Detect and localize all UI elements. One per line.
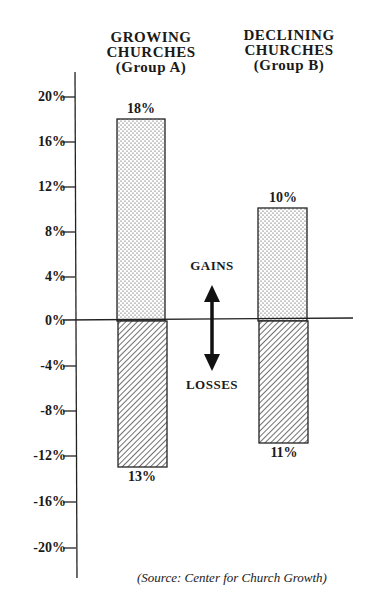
- y-tick-label: 0%: [45, 314, 66, 328]
- group-a-header: GROWING CHURCHES (Group A): [96, 30, 206, 75]
- group-a-line2: CHURCHES: [96, 45, 206, 60]
- y-tick-label: -20%: [33, 541, 66, 555]
- losses-annotation: LOSSES: [177, 377, 247, 393]
- group-b-header: DECLINING CHURCHES (Group B): [234, 28, 344, 73]
- group-a-gain-value: 18%: [111, 102, 171, 116]
- group-a-line3: (Group A): [96, 60, 206, 75]
- y-tick-label: 12%: [38, 180, 66, 194]
- y-tick-label: 8%: [45, 225, 66, 239]
- group-b-line2: CHURCHES: [234, 43, 344, 58]
- y-tick-label: 16%: [38, 135, 66, 149]
- gains-annotation: GAINS: [177, 258, 247, 274]
- group-a-loss-value: 13%: [112, 470, 172, 484]
- group-b-line1: DECLINING: [234, 28, 344, 43]
- y-tick-label: -12%: [33, 449, 66, 463]
- group-b-loss-value: 11%: [254, 446, 314, 460]
- bar-group-b-gains: [258, 208, 307, 321]
- gains-losses-arrow-icon: [204, 285, 220, 371]
- y-tick-label: -8%: [40, 404, 66, 418]
- y-tick-label: 4%: [45, 270, 66, 284]
- bar-group-a-losses: [118, 321, 167, 467]
- zero-line: [63, 318, 353, 320]
- bar-group-a-gains: [117, 119, 165, 321]
- y-tick-label: 20%: [38, 90, 66, 104]
- group-b-gain-value: 10%: [253, 191, 313, 205]
- bar-group-b-losses: [259, 321, 308, 443]
- source-note: (Source: Center for Church Growth): [45, 570, 374, 586]
- group-b-line3: (Group B): [234, 58, 344, 73]
- y-tick-label: -4%: [40, 359, 66, 373]
- group-a-line1: GROWING: [96, 30, 206, 45]
- y-tick-label: -16%: [33, 495, 66, 509]
